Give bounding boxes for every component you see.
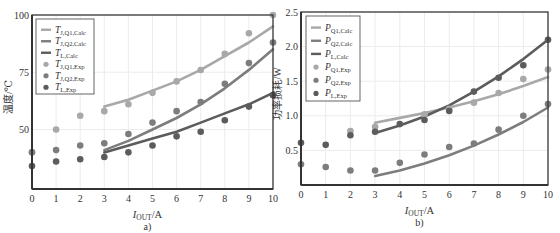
data-point (77, 142, 84, 149)
data-point (77, 112, 84, 119)
data-point (101, 154, 108, 161)
data-point (149, 90, 156, 97)
y-tick-label: 75 (19, 67, 29, 78)
data-point (149, 119, 156, 126)
x-tick-label: 9 (521, 189, 526, 200)
y-tick-label: 2.5 (286, 7, 299, 18)
y-axis-label: 温度/℃ (2, 80, 14, 114)
figure: 0123456789105075100IOUT/Aa)温度/℃TJ,Q1,Cal… (0, 0, 560, 232)
x-tick-label: 10 (543, 189, 553, 200)
data-point (397, 121, 404, 128)
data-point (520, 62, 527, 69)
x-tick-label: 6 (447, 189, 452, 200)
legend-dot-swatch (313, 64, 318, 69)
legend-dot-swatch (43, 73, 48, 78)
x-tick-label: 8 (222, 193, 227, 204)
data-point (149, 142, 156, 149)
data-point (197, 128, 204, 135)
x-tick-label: 1 (323, 189, 328, 200)
data-point (222, 51, 229, 58)
y-tick-label: 0.5 (286, 145, 299, 156)
chart-panel-a: 0123456789105075100IOUT/Aa)温度/℃TJ,Q1,Cal… (2, 10, 278, 233)
data-point (125, 101, 132, 108)
data-point (495, 90, 502, 97)
data-point (322, 164, 329, 171)
data-point (246, 60, 253, 67)
data-point (77, 156, 84, 163)
data-point (222, 80, 229, 87)
x-tick-label: 3 (102, 193, 107, 204)
y-axis-label: 功率损耗/W (271, 67, 283, 120)
data-point (520, 113, 527, 120)
data-point (421, 151, 428, 158)
data-point (372, 167, 379, 174)
data-point (347, 132, 354, 139)
data-point (173, 133, 180, 140)
x-tick-label: 9 (246, 193, 251, 204)
data-point (495, 126, 502, 133)
data-point (446, 108, 453, 115)
data-point (222, 117, 229, 124)
data-point (471, 140, 478, 147)
data-point (397, 160, 404, 167)
x-tick-label: 8 (496, 189, 501, 200)
data-point (197, 67, 204, 74)
legend-dot-swatch (43, 62, 48, 67)
legend-dot-swatch (43, 85, 48, 90)
panel-caption: b) (415, 217, 423, 229)
data-point (53, 158, 60, 165)
series-line (104, 26, 273, 106)
panel-caption: a) (144, 221, 152, 232)
x-tick-label: 7 (471, 189, 476, 200)
data-point (246, 103, 253, 110)
y-tick-label: 2.0 (286, 41, 299, 52)
chart-panel-b: 0123456789100.51.01.52.02.5IOUT/Ab)功率损耗/… (271, 7, 553, 230)
data-point (495, 74, 502, 81)
x-tick-label: 2 (348, 189, 353, 200)
data-point (246, 30, 253, 37)
legend: PQ1,CalcPQ2,CalcPL,CalcPQ1,ExpPQ2,ExpPL,… (306, 16, 360, 101)
x-tick-label: 5 (150, 193, 155, 204)
data-point (322, 142, 329, 149)
x-tick-label: 4 (126, 193, 131, 204)
data-point (446, 144, 453, 151)
data-point (173, 78, 180, 85)
data-point (173, 108, 180, 115)
x-tick-label: 4 (397, 189, 402, 200)
data-point (421, 117, 428, 124)
data-point (520, 76, 527, 83)
data-point (101, 108, 108, 115)
data-point (372, 128, 379, 135)
legend-dot-swatch (313, 78, 318, 83)
x-tick-label: 2 (78, 193, 83, 204)
data-point (53, 147, 60, 154)
x-tick-label: 5 (422, 189, 427, 200)
y-tick-label: 1.0 (286, 110, 299, 121)
x-tick-label: 7 (198, 193, 203, 204)
data-point (347, 167, 354, 174)
x-tick-label: 0 (30, 193, 35, 204)
x-tick-label: 1 (54, 193, 59, 204)
data-point (101, 140, 108, 147)
legend: TJ,Q1,CalcTJ,Q2,CalcTL,CalcTJ,Q1,ExpTJ,Q… (36, 19, 94, 94)
data-point (197, 99, 204, 106)
data-point (125, 149, 132, 156)
legend-dot-swatch (313, 91, 318, 96)
y-tick-label: 100 (14, 10, 29, 21)
data-point (53, 126, 60, 133)
y-tick-label: 50 (19, 124, 29, 135)
x-tick-label: 0 (299, 189, 304, 200)
data-point (125, 131, 132, 138)
data-point (471, 88, 478, 95)
data-point (471, 99, 478, 106)
x-tick-label: 3 (373, 189, 378, 200)
x-tick-label: 6 (174, 193, 179, 204)
y-tick-label: 1.5 (286, 76, 299, 87)
x-tick-label: 10 (268, 193, 278, 204)
